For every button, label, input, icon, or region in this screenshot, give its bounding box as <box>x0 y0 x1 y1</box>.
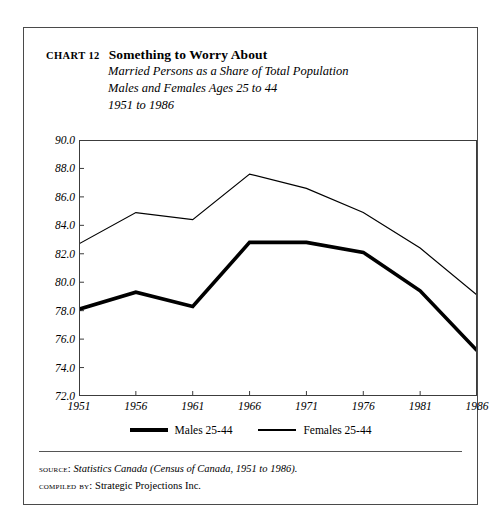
x-tick-label: 1966 <box>238 400 261 412</box>
y-tick-label: 88.0 <box>55 162 75 174</box>
y-tick-label: 90.0 <box>55 134 75 146</box>
y-axis-tick-labels: 72.074.076.078.080.082.084.086.088.090.0 <box>32 140 75 396</box>
y-tick-label: 82.0 <box>55 248 75 260</box>
source-line: Source: Statistics Canada (Census of Can… <box>39 460 462 477</box>
y-tick-label: 78.0 <box>55 305 75 317</box>
title-row: Chart 12 Something to Worry About <box>46 47 446 63</box>
x-tick-label: 1961 <box>181 400 204 412</box>
y-tick-label: 84.0 <box>55 219 75 231</box>
plot-frame <box>79 140 477 396</box>
plot-area <box>79 140 477 396</box>
y-tick-label: 80.0 <box>55 276 75 288</box>
x-axis-tick-labels: 19511956196119661971197619811986 <box>79 400 477 420</box>
footer-block: Source: Statistics Canada (Census of Can… <box>39 460 462 494</box>
y-tick-label: 76.0 <box>55 333 75 345</box>
compiled-label: Compiled by: <box>39 480 92 491</box>
legend-item-males: Males 25-44 <box>130 424 233 436</box>
legend-swatch-females-icon <box>258 429 296 430</box>
y-tick-label: 74.0 <box>55 362 75 374</box>
compiled-text: Strategic Projections Inc. <box>95 480 201 491</box>
y-tick-label: 86.0 <box>55 191 75 203</box>
legend-label-females: Females 25-44 <box>303 424 371 436</box>
x-tick-label: 1976 <box>352 400 375 412</box>
footer-divider <box>39 451 462 452</box>
legend-swatch-males-icon <box>130 428 168 432</box>
chart-subtitle-1: Married Persons as a Share of Total Popu… <box>108 63 446 80</box>
title-block: Chart 12 Something to Worry About Marrie… <box>46 47 446 114</box>
x-tick-label: 1956 <box>124 400 147 412</box>
x-tick-label: 1951 <box>68 400 91 412</box>
chart-subtitle-3: 1951 to 1986 <box>108 97 446 114</box>
legend-item-females: Females 25-44 <box>258 424 371 436</box>
chart-subtitle-2: Males and Females Ages 25 to 44 <box>108 80 446 97</box>
source-label: Source: <box>39 463 71 474</box>
chart-legend: Males 25-44 Females 25-44 <box>23 424 478 436</box>
compiled-line: Compiled by: Strategic Projections Inc. <box>39 477 462 494</box>
x-tick-label: 1981 <box>409 400 432 412</box>
x-tick-label: 1986 <box>466 400 489 412</box>
chart-page: Chart 12 Something to Worry About Marrie… <box>0 0 501 532</box>
page-title: Something to Worry About <box>109 47 268 63</box>
source-text: Statistics Canada (Census of Canada, 195… <box>74 463 298 474</box>
x-tick-label: 1971 <box>295 400 318 412</box>
chart-number-label: Chart 12 <box>46 50 100 61</box>
legend-label-males: Males 25-44 <box>175 424 233 436</box>
